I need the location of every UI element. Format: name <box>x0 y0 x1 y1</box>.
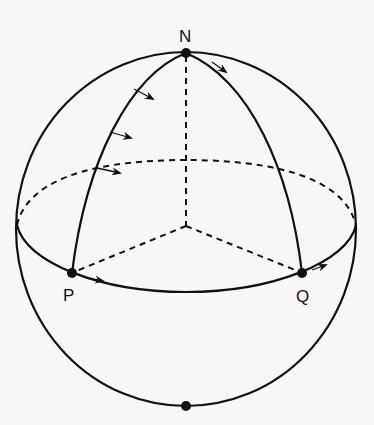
label-q: Q <box>296 287 309 306</box>
label-p: P <box>63 286 74 305</box>
radius-to-q-dashed <box>186 226 300 272</box>
radius-to-p-dashed <box>74 226 186 272</box>
tangent-vector-2 <box>110 132 131 138</box>
tangent-vector-1 <box>134 89 153 99</box>
south-pole-point <box>181 401 191 411</box>
label-n: N <box>179 27 191 46</box>
sphere-diagram: N P Q <box>0 0 374 425</box>
point-p <box>67 268 77 278</box>
equator-front <box>17 225 356 292</box>
north-pole-point <box>181 48 191 58</box>
tangent-vector-3 <box>97 168 120 173</box>
point-q <box>297 268 307 278</box>
